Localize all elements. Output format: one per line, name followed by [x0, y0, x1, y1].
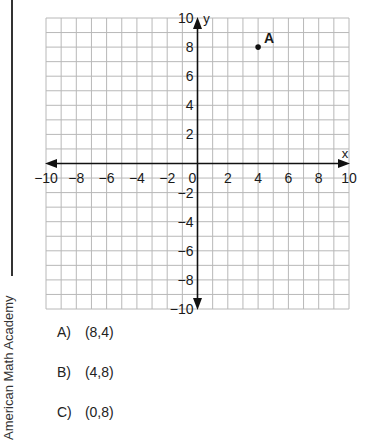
x-tick-label: 8	[315, 170, 323, 186]
y-tick-label: −10	[170, 301, 194, 317]
y-tick-label: 10	[178, 10, 194, 26]
y-tick-label: −6	[178, 243, 194, 259]
y-tick-label: 4	[186, 97, 194, 113]
arrow-up-icon	[193, 17, 202, 29]
point-label: A	[264, 30, 274, 46]
x-tick-label: 0	[189, 170, 197, 186]
x-tick-label: −8	[68, 170, 84, 186]
y-tick-label: 2	[186, 126, 194, 142]
x-tick-label: −2	[159, 170, 175, 186]
y-axis-label: y	[203, 11, 210, 26]
choice-b[interactable]: B) (4,8)	[57, 364, 114, 380]
x-axis-label: x	[342, 146, 349, 161]
y-tick-label: −4	[178, 214, 194, 230]
x-tick-label: −6	[99, 170, 115, 186]
choice-c[interactable]: C) (0,8)	[57, 404, 114, 420]
arrow-left-icon	[45, 159, 57, 168]
x-tick-label: −10	[34, 170, 58, 186]
x-tick-label: 4	[254, 170, 262, 186]
point-a	[255, 44, 261, 50]
choice-a[interactable]: A) (8,4)	[57, 324, 114, 340]
x-tick-label: −4	[129, 170, 145, 186]
y-tick-label: −2	[178, 185, 194, 201]
x-tick-label: 6	[285, 170, 293, 186]
x-tick-label: 2	[224, 170, 232, 186]
arrow-down-icon	[193, 298, 202, 310]
y-tick-label: −8	[178, 272, 194, 288]
coordinate-plane: −10−8−6−4−20246810−10−8−6−4−2246810xyA	[0, 0, 373, 440]
x-tick-label: 10	[341, 170, 357, 186]
y-tick-label: 6	[186, 68, 194, 84]
y-tick-label: 8	[186, 39, 194, 55]
